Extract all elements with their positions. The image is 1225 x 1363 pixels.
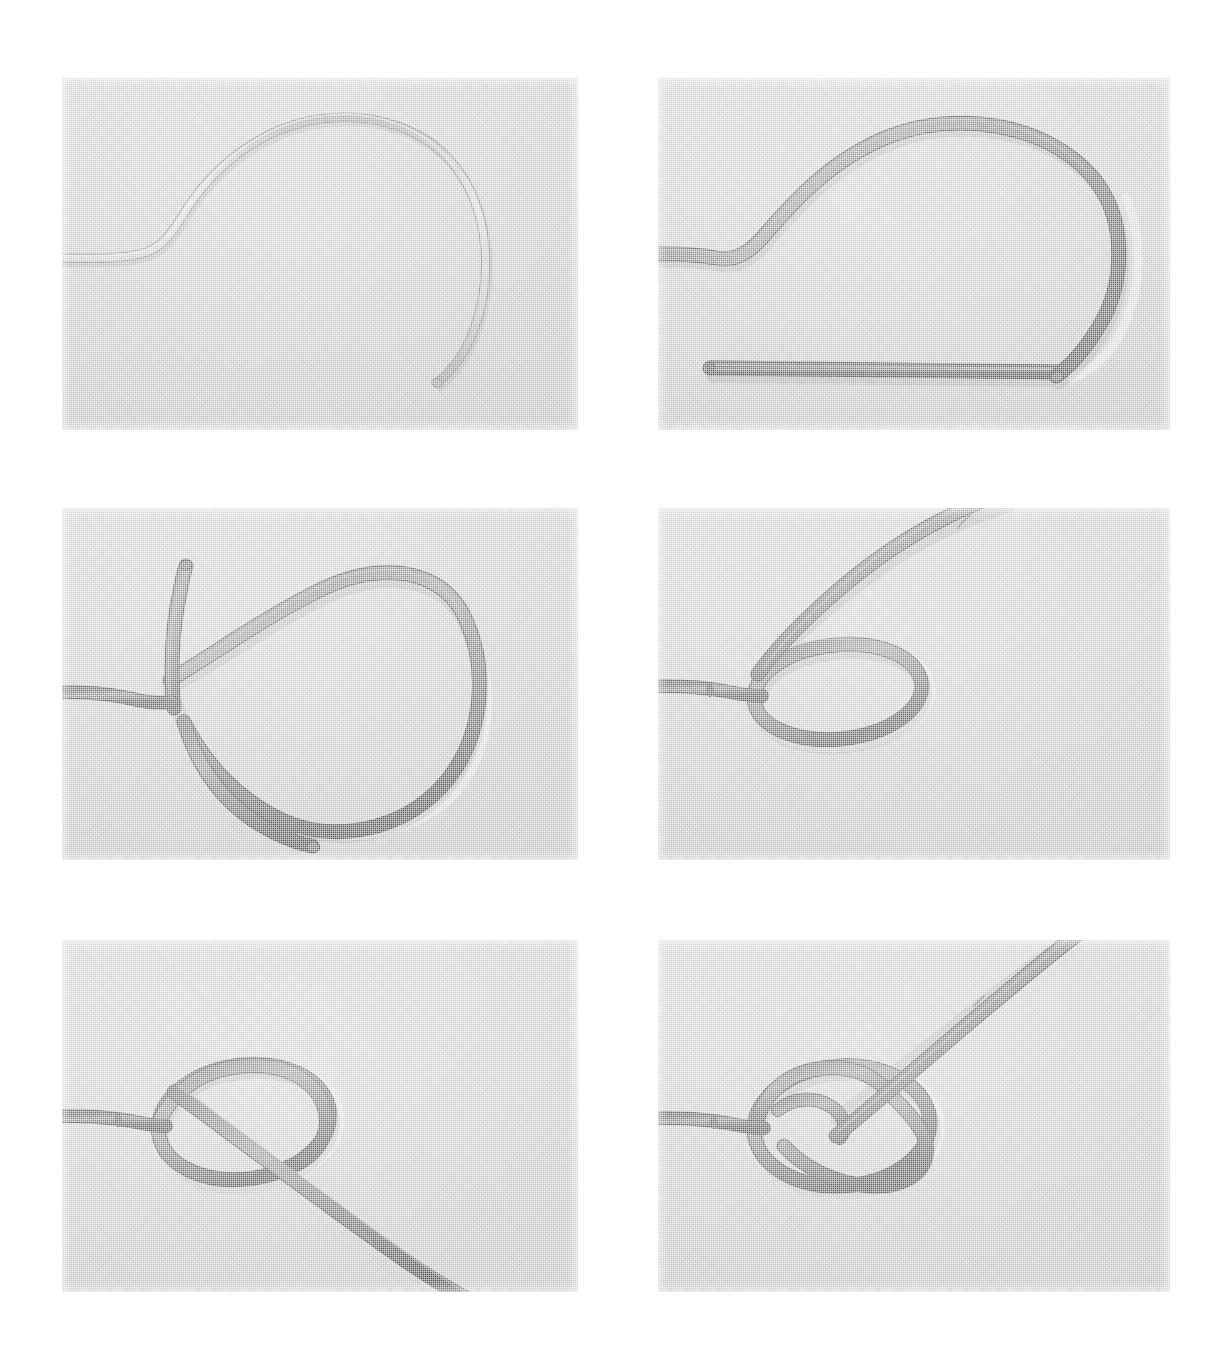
rope-illustration-5	[62, 940, 578, 1292]
step-photo-4	[658, 508, 1170, 860]
rope-illustration-6	[658, 940, 1170, 1292]
step-photo-2	[658, 78, 1170, 430]
step-photo-3	[62, 508, 578, 860]
rope-illustration-3	[62, 508, 578, 860]
step-photo-6	[658, 940, 1170, 1292]
rope-illustration-2	[658, 78, 1170, 430]
step-photo-5	[62, 940, 578, 1292]
step-photo-1	[62, 78, 578, 430]
instruction-sheet	[0, 0, 1225, 1363]
rope-illustration-1	[62, 78, 578, 430]
rope-illustration-4	[658, 508, 1170, 860]
rope-standing-part-2	[710, 365, 1062, 372]
